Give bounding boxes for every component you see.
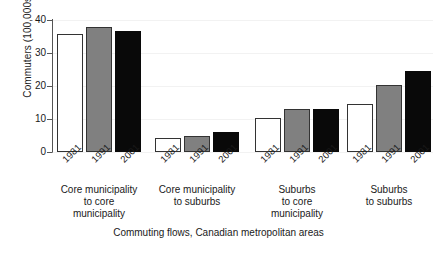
bar-group: [57, 19, 141, 152]
bar-group: [347, 19, 431, 152]
bar: [57, 34, 83, 152]
y-tick-mark: [47, 86, 52, 87]
y-tick-label: 40: [14, 14, 46, 26]
group-label: Core municipality to suburbs: [142, 184, 252, 208]
y-tick-mark: [47, 53, 52, 54]
y-tick-mark: [47, 152, 52, 153]
group-label: Core municipality to core municipality: [44, 184, 154, 221]
group-label: Suburbs to suburbs: [334, 184, 437, 208]
bar-group: [155, 19, 239, 152]
bar: [405, 71, 431, 152]
x-axis-title: Commuting flows, Canadian metropolitan a…: [0, 227, 437, 238]
y-tick-label: 10: [14, 113, 46, 125]
y-tick-mark: [47, 20, 52, 21]
y-tick-mark: [47, 119, 52, 120]
y-tick-label: 30: [14, 47, 46, 59]
bar-group: [255, 19, 339, 152]
plot-area: 010203040: [52, 19, 433, 153]
y-tick-label: 0: [14, 146, 46, 158]
bar: [115, 31, 141, 152]
bar: [376, 85, 402, 152]
gridline: [53, 152, 433, 153]
bar-chart-figure: Commuters (100,000s) 010203040 198119912…: [0, 0, 437, 253]
y-tick-label: 20: [14, 80, 46, 92]
bar: [86, 27, 112, 152]
